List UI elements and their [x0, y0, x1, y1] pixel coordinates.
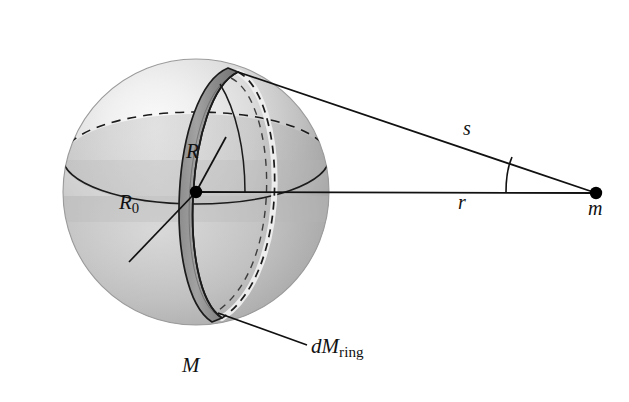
label-ring-mass-subscript: ring: [339, 344, 364, 360]
leader-line-dM-ring: [218, 313, 307, 345]
label-distance-r: r: [458, 192, 466, 212]
label-sphere-radius-base: R: [119, 190, 132, 214]
label-ring-mass-base: dM: [311, 334, 339, 358]
label-sphere-radius: R0: [119, 192, 139, 215]
label-ring-mass: dMring: [311, 336, 364, 360]
label-test-mass: m: [588, 198, 602, 218]
label-sphere-radius-subscript: 0: [132, 200, 139, 216]
physics-diagram-sphere-ring: R R0 s r m M dMring: [0, 0, 629, 402]
label-ring-radius: R: [186, 141, 199, 162]
label-distance-s: s: [463, 118, 471, 138]
line-r: [196, 192, 596, 193]
label-sphere-mass: M: [182, 355, 200, 376]
sphere-center-dot: [190, 186, 202, 198]
